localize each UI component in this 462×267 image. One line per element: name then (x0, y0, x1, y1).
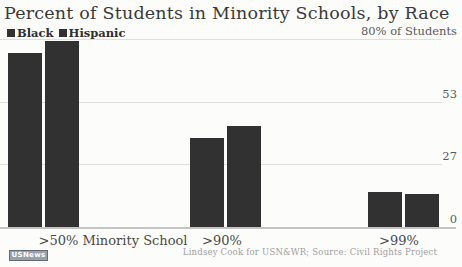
bar-hispanic-2 (405, 194, 439, 227)
x-label-1: >90% (202, 233, 242, 248)
y-tick-label-0: 0 (450, 213, 457, 226)
bar-black-1 (190, 138, 224, 227)
attribution: Lindsey Cook for USN&WR; Source: Civil R… (183, 247, 437, 257)
bar-hispanic-0 (45, 41, 79, 227)
plot-area: 80% of Students53270>50% Minority School… (0, 0, 462, 267)
x-label-2: >99% (379, 233, 419, 248)
y-tick-label-53: 53 (442, 88, 457, 101)
x-label-0: >50% Minority School (38, 233, 187, 248)
usnews-logo: USNews (9, 250, 48, 261)
y-tick-label-80: 80% of Students (361, 25, 457, 38)
bar-black-0 (8, 53, 42, 227)
y-tick-label-27: 27 (442, 150, 457, 163)
gridline-0 (0, 227, 456, 229)
bar-hispanic-1 (227, 126, 261, 227)
gridline-80 (0, 39, 442, 40)
chart-container: Percent of Students in Minority Schools,… (0, 0, 462, 267)
bar-black-2 (368, 192, 402, 227)
